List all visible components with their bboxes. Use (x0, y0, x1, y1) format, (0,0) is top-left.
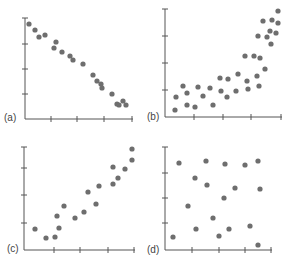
data-point (173, 94, 178, 99)
data-point (245, 86, 250, 91)
data-point (170, 234, 175, 239)
data-point (80, 61, 85, 66)
data-point (56, 225, 61, 230)
data-point (115, 175, 120, 180)
scatter-panel-b (162, 8, 282, 120)
data-point (204, 182, 209, 187)
panel-label-c: (c) (7, 243, 19, 254)
data-point (192, 104, 197, 109)
data-point (176, 160, 181, 165)
data-point (255, 33, 260, 38)
data-point (224, 94, 229, 99)
data-point (255, 158, 260, 163)
data-point (32, 226, 37, 231)
data-point (251, 53, 256, 58)
data-point (255, 242, 260, 247)
data-point (269, 17, 274, 22)
data-point (52, 234, 57, 239)
data-point (273, 30, 278, 35)
data-point (218, 88, 223, 93)
data-point (235, 71, 240, 76)
data-point (36, 34, 41, 39)
scatter-panel-a (22, 18, 133, 122)
data-point (43, 235, 48, 240)
data-point (254, 73, 259, 78)
data-point (193, 226, 198, 231)
data-point (72, 215, 77, 220)
data-point (242, 162, 247, 167)
data-point (221, 195, 226, 200)
data-point (51, 45, 56, 50)
data-point (129, 146, 134, 151)
data-point (203, 158, 208, 163)
data-point (61, 203, 66, 208)
data-point (129, 157, 134, 162)
data-point (81, 209, 86, 214)
data-point (256, 83, 261, 88)
data-point (123, 102, 128, 107)
data-point (210, 102, 215, 107)
data-point (26, 21, 31, 26)
data-point (200, 93, 205, 98)
data-point (96, 183, 101, 188)
scatter-panel-d (162, 147, 272, 253)
data-point (109, 91, 114, 96)
data-point (180, 83, 185, 88)
data-point (233, 88, 238, 93)
data-point (54, 213, 59, 218)
data-point (275, 20, 280, 25)
panel-label-b: (b) (147, 111, 159, 122)
data-point (275, 8, 280, 13)
data-point (185, 203, 190, 208)
data-point (244, 78, 249, 83)
scatter-panel-c (21, 146, 135, 253)
data-point (122, 166, 127, 171)
panel-label-d: (d) (147, 244, 159, 255)
data-point (195, 84, 200, 89)
data-point (257, 186, 262, 191)
data-point (242, 53, 247, 58)
data-point (262, 66, 267, 71)
data-point (226, 226, 231, 231)
data-point (85, 189, 90, 194)
data-point (42, 32, 47, 37)
data-point (172, 107, 177, 112)
panel-label-a: (a) (4, 112, 16, 123)
data-point (90, 72, 95, 77)
data-point (93, 201, 98, 206)
data-point (99, 85, 104, 90)
data-point (116, 102, 121, 107)
data-point (232, 185, 237, 190)
scatter-plot-grid (0, 0, 289, 265)
data-point (210, 215, 215, 220)
data-point (247, 223, 252, 228)
data-point (110, 181, 115, 186)
data-point (32, 27, 37, 32)
data-point (192, 175, 197, 180)
data-point (184, 90, 189, 95)
data-point (260, 18, 265, 23)
data-point (222, 161, 227, 166)
data-point (264, 34, 269, 39)
data-point (267, 28, 272, 33)
data-point (268, 41, 273, 46)
data-point (184, 102, 189, 107)
data-point (70, 57, 75, 62)
data-point (225, 76, 230, 81)
data-point (59, 49, 64, 54)
data-point (217, 75, 222, 80)
data-point (207, 85, 212, 90)
data-point (216, 233, 221, 238)
data-point (257, 55, 262, 60)
data-point (53, 39, 58, 44)
data-point (110, 164, 115, 169)
